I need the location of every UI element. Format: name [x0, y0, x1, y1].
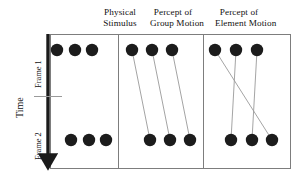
- panel-header-line1: Physical: [100, 7, 140, 18]
- dot-frame2: [246, 134, 258, 146]
- dot-frame1: [209, 44, 221, 56]
- dot-frame2: [184, 134, 196, 146]
- frame-2-label: Frame 2: [34, 132, 43, 160]
- time-axis-label: Time: [14, 97, 25, 118]
- panel-header-line2: Group Motion: [150, 18, 196, 29]
- dot-frame1: [251, 44, 263, 56]
- dot-frame2: [164, 134, 176, 146]
- frame-1-label: Frame 1: [34, 60, 43, 88]
- dot-frame1: [51, 44, 63, 56]
- dot-frame1: [146, 44, 158, 56]
- dot-frame2: [65, 134, 77, 146]
- dot-frame2: [83, 134, 95, 146]
- dot-frame2: [100, 134, 112, 146]
- dot-frame2: [225, 134, 237, 146]
- dot-frame1: [126, 44, 138, 56]
- dot-frame1: [69, 44, 81, 56]
- apparent-motion-figure: Physical Stimulus Percept of Group Motio…: [0, 0, 300, 183]
- dot-frame2: [266, 134, 278, 146]
- panel-header-line1: Percept of: [215, 7, 263, 18]
- panel-header-element-motion: Percept of Element Motion: [215, 7, 263, 29]
- dot-frame2: [144, 134, 156, 146]
- panel-header-line2: Element Motion: [215, 18, 263, 29]
- panel-header-line2: Stimulus: [100, 18, 140, 29]
- dot-frame1: [86, 44, 98, 56]
- dot-frame1: [230, 44, 242, 56]
- panel-header-group-motion: Percept of Group Motion: [150, 7, 196, 29]
- panel-header-line1: Percept of: [150, 7, 196, 18]
- dot-frame1: [166, 44, 178, 56]
- panel-header-physical-stimulus: Physical Stimulus: [100, 7, 140, 29]
